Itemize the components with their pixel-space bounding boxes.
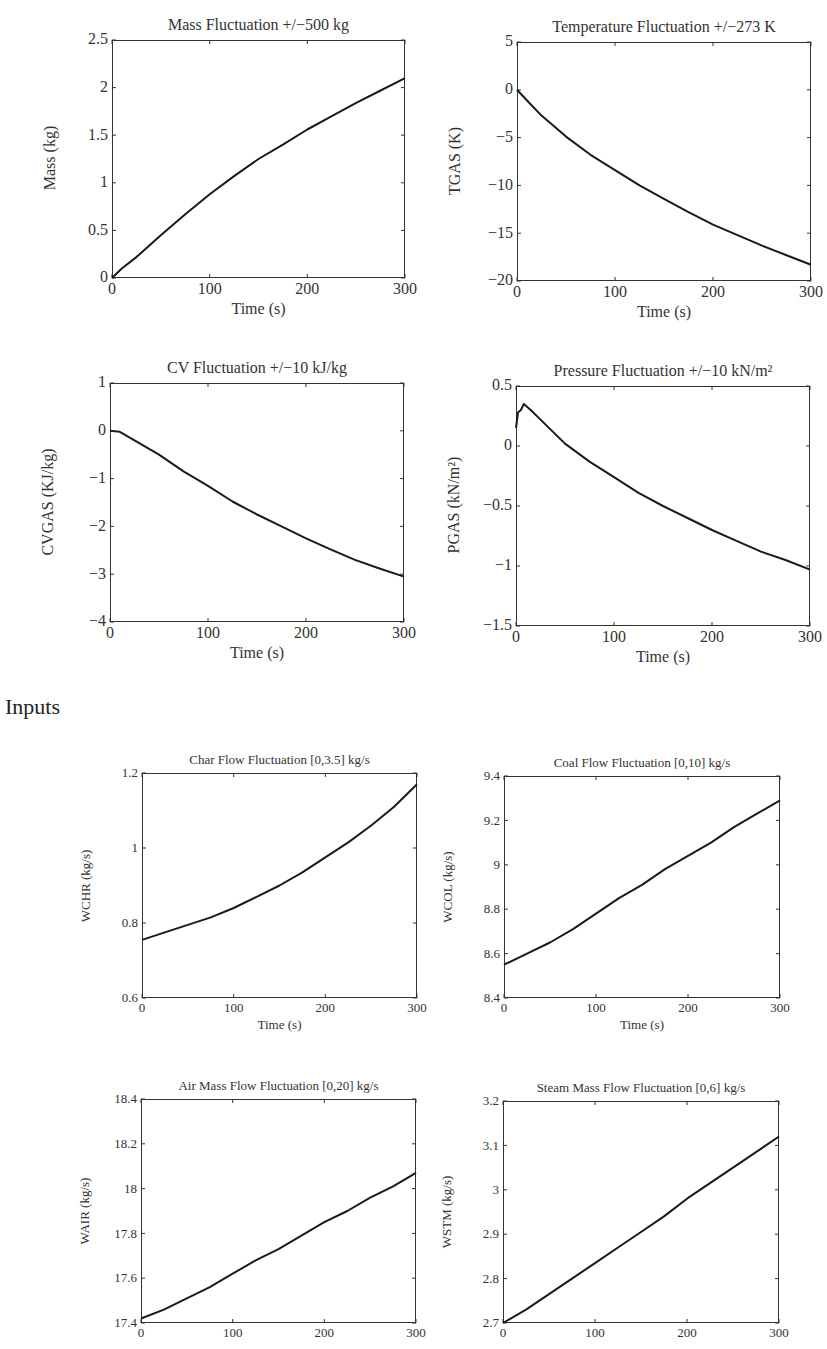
y-axis-label: WCHR (kg/s) — [78, 786, 94, 986]
y-tick-label: 0 — [56, 268, 108, 286]
chart-title: CV Fluctuation +/−10 kJ/kg — [110, 359, 404, 377]
x-tick-label: 100 — [209, 1000, 259, 1016]
y-tick-label: −10 — [461, 176, 513, 194]
y-axis-label: CVGAS (KJ/kg) — [39, 402, 57, 602]
chart-title: Pressure Fluctuation +/−10 kN/m² — [516, 362, 810, 380]
y-tick-label: −4 — [54, 612, 106, 630]
y-tick-label: 1.2 — [86, 765, 138, 781]
plot-area — [516, 386, 810, 626]
y-tick-label: −1 — [54, 469, 106, 487]
x-axis-label: Time (s) — [516, 648, 810, 666]
x-tick-label: 200 — [281, 624, 331, 642]
x-tick-label: 100 — [590, 283, 640, 301]
y-tick-label: 9.4 — [448, 768, 500, 784]
y-tick-label: 5 — [461, 32, 513, 50]
x-axis-label: Time (s) — [142, 1017, 417, 1033]
chart-title: Coal Flow Fluctuation [0,10] kg/s — [504, 755, 780, 771]
y-tick-label: −1.5 — [460, 616, 512, 634]
y-tick-label: 0.5 — [460, 376, 512, 394]
plot-area — [112, 40, 405, 278]
chart-title: Char Flow Fluctuation [0,3.5] kg/s — [142, 752, 417, 768]
x-tick-label: 100 — [589, 628, 639, 646]
x-tick-label: 300 — [379, 624, 429, 642]
y-tick-label: −1 — [460, 556, 512, 574]
y-tick-label: 0 — [54, 421, 106, 439]
x-tick-label: 100 — [208, 1325, 258, 1341]
y-tick-label: −2 — [54, 517, 106, 535]
x-tick-label: 200 — [282, 280, 332, 298]
y-axis-label: Mass (kg) — [41, 58, 59, 258]
x-tick-label: 200 — [687, 628, 737, 646]
y-tick-label: 2 — [56, 78, 108, 96]
y-tick-label: −3 — [54, 565, 106, 583]
y-tick-label: −0.5 — [460, 496, 512, 514]
x-axis-label: Time (s) — [504, 1017, 780, 1033]
plot-area — [110, 383, 404, 622]
y-tick-label: 2.7 — [447, 1315, 499, 1331]
y-tick-label: 8.4 — [448, 990, 500, 1006]
x-tick-label: 300 — [754, 1325, 804, 1341]
plot-area — [504, 776, 780, 998]
y-tick-label: 1 — [54, 373, 106, 391]
plot-area — [141, 1099, 416, 1323]
y-axis-label: WSTM (kg/s) — [439, 1112, 455, 1312]
x-tick-label: 200 — [300, 1000, 350, 1016]
y-tick-label: 0 — [460, 436, 512, 454]
y-axis-label: PGAS (kN/m²) — [445, 405, 463, 605]
y-tick-label: 0.6 — [86, 990, 138, 1006]
y-tick-label: 1 — [56, 173, 108, 191]
inputs-section-label: Inputs — [5, 694, 60, 720]
chart-title: Air Mass Flow Fluctuation [0,20] kg/s — [141, 1078, 416, 1094]
x-tick-label: 300 — [392, 1000, 442, 1016]
x-tick-label: 300 — [755, 1000, 805, 1016]
x-tick-label: 200 — [662, 1325, 712, 1341]
y-axis-label: TGAS (K) — [446, 61, 464, 261]
plot-area — [142, 773, 417, 998]
chart-title: Steam Mass Flow Fluctuation [0,6] kg/s — [503, 1080, 779, 1096]
y-tick-label: 2.5 — [56, 30, 108, 48]
x-tick-label: 200 — [688, 283, 738, 301]
plot-area — [517, 42, 811, 281]
x-tick-label: 300 — [380, 280, 430, 298]
y-tick-label: 0.5 — [56, 221, 108, 239]
y-tick-label: −15 — [461, 224, 513, 242]
x-tick-label: 300 — [785, 628, 827, 646]
plot-area — [503, 1101, 779, 1323]
x-tick-label: 200 — [299, 1325, 349, 1341]
y-axis-label: WAIR (kg/s) — [77, 1111, 93, 1311]
x-tick-label: 100 — [185, 280, 235, 298]
y-tick-label: 17.4 — [85, 1315, 137, 1331]
x-tick-label: 200 — [663, 1000, 713, 1016]
x-axis-label: Time (s) — [110, 644, 404, 662]
chart-title: Temperature Fluctuation +/−273 K — [517, 18, 811, 36]
y-tick-label: 1.5 — [56, 126, 108, 144]
y-tick-label: 0 — [461, 80, 513, 98]
y-tick-label: 18.4 — [85, 1091, 137, 1107]
x-tick-label: 100 — [571, 1000, 621, 1016]
x-tick-label: 100 — [570, 1325, 620, 1341]
x-axis-label: Time (s) — [517, 303, 811, 321]
x-tick-label: 300 — [786, 283, 827, 301]
y-tick-label: 3.2 — [447, 1093, 499, 1109]
x-axis-label: Time (s) — [112, 300, 405, 318]
chart-title: Mass Fluctuation +/−500 kg — [112, 16, 405, 34]
x-tick-label: 300 — [391, 1325, 441, 1341]
y-tick-label: −5 — [461, 128, 513, 146]
y-axis-label: WCOL (kg/s) — [440, 787, 456, 987]
x-tick-label: 100 — [183, 624, 233, 642]
y-tick-label: −20 — [461, 271, 513, 289]
